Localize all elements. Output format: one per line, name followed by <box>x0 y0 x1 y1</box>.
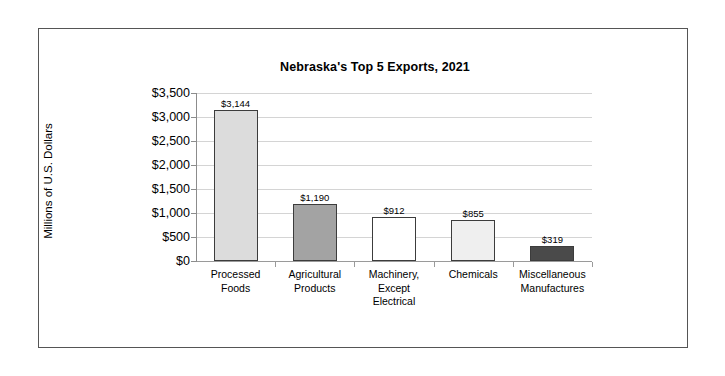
chart-title: Nebraska's Top 5 Exports, 2021 <box>150 60 600 74</box>
bar-value-label: $3,144 <box>196 98 276 109</box>
bar-value-label: $319 <box>512 234 592 245</box>
x-tick-mark <box>434 262 435 267</box>
y-tick-mark <box>191 237 196 238</box>
y-tick-label: $500 <box>120 231 190 243</box>
y-tick-label: $3,500 <box>120 87 190 99</box>
gridline <box>196 261 592 262</box>
y-tick-mark <box>191 189 196 190</box>
y-axis-title: Millions of U.S. Dollars <box>42 86 54 276</box>
bar <box>530 246 574 261</box>
y-tick-mark <box>191 117 196 118</box>
y-tick-mark <box>191 141 196 142</box>
bar <box>214 110 258 261</box>
category-label: Miscellaneous Manufactures <box>504 268 600 295</box>
y-tick-label: $0 <box>120 255 190 267</box>
bar <box>372 217 416 261</box>
x-tick-mark <box>592 262 593 267</box>
x-tick-mark <box>513 262 514 267</box>
bar-value-label: $912 <box>354 205 434 216</box>
chart-page: Nebraska's Top 5 Exports, 2021 Millions … <box>0 0 725 376</box>
y-tick-label: $2,500 <box>120 135 190 147</box>
bar <box>451 220 495 261</box>
y-tick-label: $1,500 <box>120 183 190 195</box>
bar <box>293 204 337 261</box>
y-tick-mark <box>191 261 196 262</box>
y-tick-label: $3,000 <box>120 111 190 123</box>
y-axis-tick-labels: $3,500$3,000$2,500$2,000$1,500$1,000$500… <box>112 0 190 376</box>
x-tick-mark <box>354 262 355 267</box>
y-tick-label: $2,000 <box>120 159 190 171</box>
y-tick-label: $1,000 <box>120 207 190 219</box>
y-tick-mark <box>191 165 196 166</box>
gridline <box>196 93 592 94</box>
y-tick-mark <box>191 213 196 214</box>
bar-value-label: $1,190 <box>275 192 355 203</box>
y-tick-mark <box>191 93 196 94</box>
x-tick-mark <box>275 262 276 267</box>
bar-value-label: $855 <box>433 208 513 219</box>
y-axis-line <box>196 93 197 262</box>
